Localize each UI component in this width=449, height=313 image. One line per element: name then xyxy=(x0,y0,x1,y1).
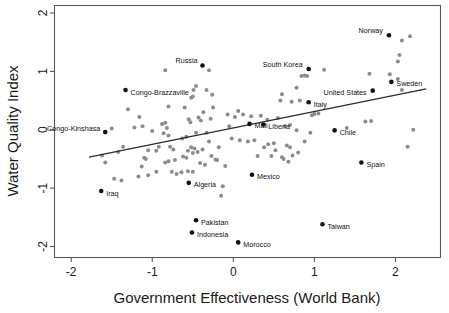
data-point xyxy=(211,106,215,110)
country-label: Sweden xyxy=(396,79,422,88)
data-point xyxy=(367,72,371,76)
data-point-highlighted xyxy=(186,181,191,186)
data-point-highlighted xyxy=(359,160,364,165)
data-point xyxy=(209,117,213,121)
data-point xyxy=(157,145,161,149)
country-label: Pakistan xyxy=(201,218,229,227)
data-point xyxy=(150,129,154,133)
data-point xyxy=(112,177,116,181)
country-label: Spain xyxy=(366,160,384,169)
data-point xyxy=(259,114,263,118)
data-point xyxy=(363,120,367,124)
data-point xyxy=(310,113,314,117)
data-point xyxy=(396,59,400,63)
data-point-highlighted xyxy=(247,122,252,127)
country-label: United States xyxy=(324,88,368,97)
data-point xyxy=(165,126,169,130)
data-point xyxy=(230,137,234,141)
data-point xyxy=(121,145,125,149)
country-label: Russia xyxy=(176,56,198,65)
data-point xyxy=(140,165,144,169)
data-point xyxy=(183,106,187,110)
x-tick-label: 2 xyxy=(392,265,399,279)
data-point xyxy=(397,53,401,57)
country-label: South Korea xyxy=(263,60,303,69)
data-point xyxy=(369,119,373,123)
data-point-highlighted xyxy=(320,222,325,227)
data-point xyxy=(400,38,404,42)
data-point xyxy=(280,155,284,159)
data-point-highlighted xyxy=(389,80,394,85)
data-point xyxy=(296,151,300,155)
data-point-highlighted xyxy=(250,172,255,177)
data-point xyxy=(163,160,167,164)
x-tick-label: -1 xyxy=(147,265,158,279)
data-point-highlighted xyxy=(236,240,241,245)
country-label: Mexico xyxy=(257,172,280,181)
country-label: Taiwan xyxy=(327,222,349,231)
data-point xyxy=(191,170,195,174)
data-point xyxy=(194,84,198,88)
x-axis-tick-labels: -2-1012 xyxy=(66,265,399,279)
data-point xyxy=(119,179,123,183)
data-point xyxy=(290,100,294,104)
data-point-highlighted xyxy=(387,33,392,38)
plot-canvas: -2-1012 -2-1012 NorwayRussiaSouth KoreaS… xyxy=(0,0,449,313)
data-point xyxy=(189,145,193,149)
data-point xyxy=(168,145,172,149)
data-point xyxy=(163,68,167,72)
data-point xyxy=(194,131,198,135)
data-point xyxy=(406,145,410,149)
y-tick-label: 2 xyxy=(36,9,50,16)
data-point xyxy=(219,194,223,198)
data-point xyxy=(191,151,195,155)
data-point xyxy=(137,115,141,119)
data-point xyxy=(227,124,231,128)
data-point xyxy=(181,155,185,159)
data-point xyxy=(179,170,183,174)
country-label: Chile xyxy=(340,128,356,137)
data-point xyxy=(207,139,211,143)
data-point xyxy=(278,99,282,103)
data-point xyxy=(299,74,303,78)
x-tick-label: -2 xyxy=(66,265,77,279)
y-tick-label: -1 xyxy=(36,182,50,193)
data-point xyxy=(308,131,312,135)
data-point xyxy=(269,154,273,158)
data-point xyxy=(256,154,260,158)
data-point xyxy=(210,93,214,97)
data-point xyxy=(408,34,412,38)
data-point xyxy=(146,148,150,152)
data-point xyxy=(132,125,136,129)
data-point-highlighted xyxy=(194,218,199,223)
data-point xyxy=(246,139,250,143)
data-point xyxy=(233,115,237,119)
data-point xyxy=(201,110,205,114)
data-point xyxy=(388,72,392,76)
data-point xyxy=(400,88,404,92)
data-point xyxy=(290,153,294,157)
country-label: Indonesia xyxy=(197,230,228,239)
data-point xyxy=(110,127,114,131)
data-point xyxy=(205,88,209,92)
data-point-highlighted xyxy=(200,63,205,68)
data-point-highlighted xyxy=(103,130,108,135)
x-tick-label: 1 xyxy=(311,265,318,279)
data-point xyxy=(196,150,200,154)
data-point xyxy=(303,139,307,143)
data-point xyxy=(272,141,276,145)
data-point xyxy=(241,113,245,117)
data-point-highlighted xyxy=(123,88,128,93)
data-point xyxy=(305,74,309,78)
data-point xyxy=(191,94,195,98)
data-point-highlighted xyxy=(306,67,311,72)
country-label: Norway xyxy=(359,26,384,35)
data-point xyxy=(170,170,174,174)
data-point xyxy=(221,184,225,188)
data-point xyxy=(238,138,242,142)
data-point xyxy=(217,145,221,149)
x-axis-title: Government Effectiveness (World Bank) xyxy=(113,289,380,306)
data-point xyxy=(154,170,158,174)
country-label: Congo-Brazzaville xyxy=(131,88,189,97)
data-point xyxy=(192,88,196,92)
